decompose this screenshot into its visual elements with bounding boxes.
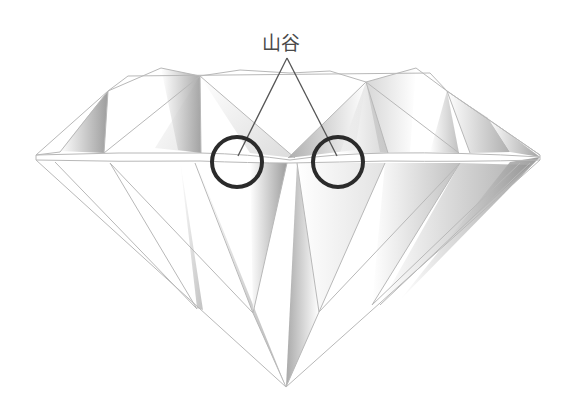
pavilion-facets xyxy=(180,157,540,387)
diamond-diagram xyxy=(0,0,564,410)
crown-facets xyxy=(60,68,540,158)
